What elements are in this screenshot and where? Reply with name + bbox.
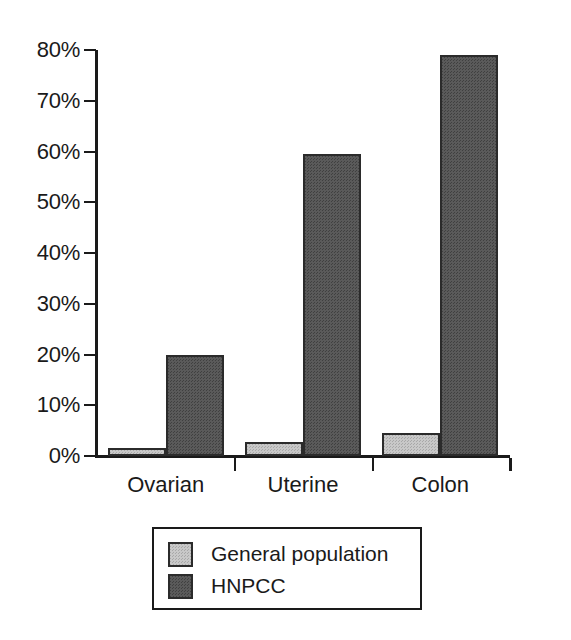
y-axis-tick-label: 70%: [0, 90, 80, 112]
bar-uterine-general-population: [245, 442, 303, 456]
x-axis-category-label: Ovarian: [86, 472, 246, 498]
bar-ovarian-general-population: [108, 448, 166, 456]
y-axis-tick-label-text: 60%: [6, 141, 80, 163]
y-axis-tick: [84, 100, 96, 102]
legend-item-hnpcc: HNPCC: [168, 570, 420, 602]
y-axis-tick-label-text: 20%: [6, 344, 80, 366]
legend-item-general-population: General population: [168, 538, 420, 570]
y-axis-tick-label-text: 70%: [6, 90, 80, 112]
bar-colon-hnpcc: [440, 55, 498, 456]
x-axis-separator-tick: [372, 458, 374, 471]
legend-label-general-population: General population: [211, 542, 388, 566]
y-axis-tick-label-text: 10%: [6, 394, 80, 416]
y-axis-tick-label-text: 0%: [6, 445, 80, 467]
x-axis-category-label: Uterine: [223, 472, 383, 498]
y-axis-tick-label: 40%: [0, 242, 80, 264]
y-axis-tick: [84, 49, 96, 51]
y-axis-tick-label-text: 50%: [6, 191, 80, 213]
y-axis-tick: [84, 252, 96, 254]
y-axis-tick: [84, 151, 96, 153]
bar-colon-general-population: [382, 433, 440, 456]
bar-ovarian-hnpcc: [166, 355, 224, 457]
y-axis-tick-label: 80%: [0, 39, 80, 61]
y-axis-tick-label-text: 40%: [6, 242, 80, 264]
y-axis-tick-label-text: 30%: [6, 293, 80, 315]
y-axis-tick: [84, 404, 96, 406]
x-axis-category-label: Colon: [360, 472, 520, 498]
bar-chart-figure: 0%10%20%30%40%50%60%70%80% OvarianUterin…: [0, 0, 571, 640]
y-axis-tick-label: 50%: [0, 191, 80, 213]
y-axis-tick: [84, 201, 96, 203]
chart-legend: General population HNPCC: [152, 527, 422, 610]
y-axis-tick-label: 10%: [0, 394, 80, 416]
legend-swatch-hnpcc: [168, 574, 193, 599]
y-axis-tick-label-text: 80%: [6, 39, 80, 61]
x-axis-separator-tick: [234, 458, 236, 471]
legend-swatch-general-population: [168, 542, 193, 567]
y-axis-tick-label: 0%: [0, 445, 80, 467]
y-axis-tick-label: 30%: [0, 293, 80, 315]
bar-uterine-hnpcc: [303, 154, 361, 456]
plot-area: [97, 50, 509, 456]
legend-label-hnpcc: HNPCC: [211, 574, 286, 598]
y-axis-tick-label: 20%: [0, 344, 80, 366]
y-axis-tick-label: 60%: [0, 141, 80, 163]
y-axis-tick: [84, 354, 96, 356]
y-axis-tick: [84, 455, 96, 457]
y-axis-tick: [84, 303, 96, 305]
x-axis-end-tick: [509, 458, 512, 471]
